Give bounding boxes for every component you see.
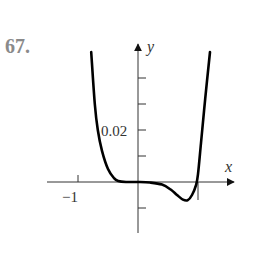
y-tick-label-002: 0.02 xyxy=(101,123,127,139)
function-graph: x y −1 0.02 xyxy=(0,0,254,261)
x-tick-label-neg1: −1 xyxy=(62,189,78,205)
x-axis-label: x xyxy=(224,158,232,175)
y-axis-label: y xyxy=(145,38,155,56)
